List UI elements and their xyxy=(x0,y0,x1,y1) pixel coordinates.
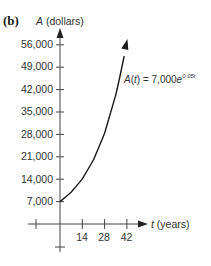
y-tick-label: 28,000 xyxy=(3,128,53,140)
curve-arrow-icon xyxy=(121,39,128,50)
y-tick-label: 14,000 xyxy=(3,173,53,185)
y-axis-variable: A xyxy=(36,15,43,27)
curve-formula-annotation: A(t) = 7,000e0.05t xyxy=(124,73,195,85)
formula-function: A xyxy=(124,74,131,85)
y-tick-label: 35,000 xyxy=(3,105,53,117)
exponential-curve xyxy=(60,56,124,202)
y-tick-label: 21,000 xyxy=(3,150,53,162)
formula-argument: t xyxy=(134,74,137,85)
x-axis-label: t (years) xyxy=(151,218,190,230)
panel-label: (b) xyxy=(3,13,19,29)
y-axis-arrow-icon xyxy=(57,28,64,38)
x-tick-label: 28 xyxy=(94,231,114,243)
y-axis-label: A (dollars) xyxy=(36,15,84,27)
x-tick-label: 14 xyxy=(72,231,92,243)
y-tick-label: 49,000 xyxy=(3,60,53,72)
formula-exponent: 0.05t xyxy=(182,73,195,79)
x-tick-label: 42 xyxy=(117,231,137,243)
y-tick-label: 7,000 xyxy=(3,195,53,207)
y-axis-unit: (dollars) xyxy=(43,15,84,27)
formula-coefficient: = 7,000 xyxy=(140,74,176,85)
y-tick-label: 56,000 xyxy=(3,38,53,50)
y-tick-label: 42,000 xyxy=(3,83,53,95)
x-axis-unit: (years) xyxy=(154,218,190,230)
x-axis-arrow-icon xyxy=(138,221,148,228)
